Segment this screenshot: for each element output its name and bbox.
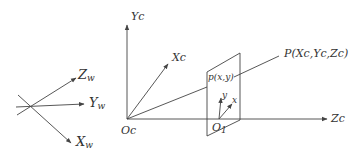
image-y-label: y: [221, 90, 228, 100]
camera-model-diagram: Zw Yw Xw Yc Xc Zc Oc y x O1 p(x,y) P(Xc,…: [0, 0, 361, 156]
image-y-axis: [219, 98, 221, 119]
zc-label: Zc: [330, 112, 345, 125]
projected-point-label: p(x,y): [208, 72, 234, 82]
o1-label: O1: [212, 121, 227, 135]
image-x-axis: [219, 104, 232, 119]
projection-ray-far: [234, 56, 279, 77]
world-point-label: P(Xc,Yc,Zc): [283, 47, 348, 60]
image-plane: y x O1 p(x,y): [207, 53, 240, 136]
zw-label: Zw: [77, 67, 95, 83]
yw-label: Yw: [89, 95, 106, 111]
xc-label: Xc: [171, 51, 186, 64]
yc-label: Yc: [131, 10, 144, 23]
xw-axis: [18, 95, 71, 143]
yw-axis: [16, 104, 84, 107]
image-x-label: x: [232, 95, 237, 105]
world-coordinate-frame: Zw Yw Xw: [16, 67, 106, 150]
oc-label: Oc: [121, 124, 136, 137]
zw-axis: [17, 78, 76, 115]
xw-label: Xw: [75, 134, 93, 150]
